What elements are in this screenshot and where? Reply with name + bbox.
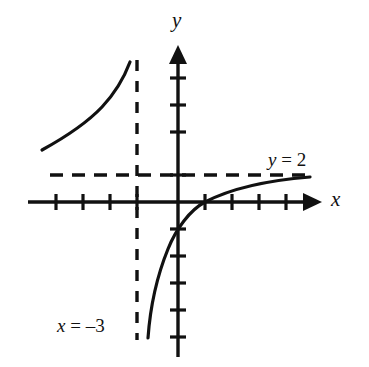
vertical-asymptote-label: x = –3 <box>57 316 105 335</box>
y-axis-arrowhead <box>169 45 187 64</box>
y-axis-label: y <box>172 10 181 31</box>
x-axis-arrowhead <box>303 193 322 211</box>
math-graph-figure: y x y = 2 x = –3 <box>0 0 369 367</box>
x-axis-label: x <box>331 189 340 210</box>
graph-canvas <box>0 0 369 367</box>
curve-left-branch <box>42 62 130 150</box>
vertical-asymptote-label-value: = –3 <box>65 315 104 336</box>
horizontal-asymptote-label-value: = 2 <box>276 149 306 170</box>
horizontal-asymptote-label: y = 2 <box>268 150 306 169</box>
